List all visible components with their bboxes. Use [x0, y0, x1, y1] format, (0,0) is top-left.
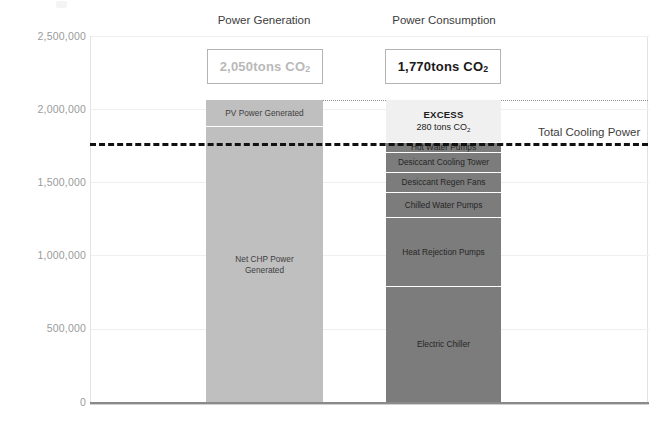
excess-title: EXCESS — [423, 109, 463, 121]
generation-co2-callout: 2,050 tons CO2 — [207, 49, 323, 84]
excess-unit: tons CO — [432, 122, 468, 132]
segment-pv-power-generated: PV Power Generated — [206, 100, 323, 126]
segment-label: Electric Chiller — [417, 339, 470, 349]
segment-desiccant-cooling-tower: Desiccant Cooling Tower — [386, 152, 501, 172]
gridline-500000 — [91, 329, 649, 330]
segment-net-chp-power-generated: Net CHP Power Generated — [206, 126, 323, 402]
gridline-1000000 — [91, 255, 649, 256]
gridline-2000000 — [91, 109, 649, 110]
total-cooling-power-label: Total Cooling Power — [538, 126, 640, 138]
consumption-co2-subscript: 2 — [483, 64, 488, 74]
consumption-co2-callout: 1,770 tons CO2 — [385, 49, 501, 84]
generation-co2-subscript: 2 — [305, 64, 310, 74]
gridline-1500000 — [91, 182, 649, 183]
segment-label-line1: Net CHP Power — [235, 254, 293, 264]
segment-label: Desiccant Cooling Tower — [398, 157, 489, 167]
column-header-consumption: Power Consumption — [374, 14, 514, 26]
segment-label-line2: Generated — [245, 265, 284, 275]
segment-label: Net CHP Power Generated — [235, 254, 293, 274]
x-axis-baseline-shadow — [90, 404, 649, 405]
segment-label: Heat Rejection Pumps — [402, 247, 485, 257]
plot-area — [90, 36, 648, 402]
y-axis-tick-labels: 2,500,000 2,000,000 1,500,000 1,000,000 … — [0, 0, 86, 427]
consumption-co2-unit: tons CO — [431, 59, 483, 74]
generation-co2-unit: tons CO — [253, 59, 305, 74]
column-header-generation: Power Generation — [194, 14, 334, 26]
segment-desiccant-regen-fans: Desiccant Regen Fans — [386, 172, 501, 192]
y-tick-0: 0 — [2, 396, 86, 408]
excess-number: 280 — [417, 122, 432, 132]
segment-chilled-water-pumps: Chilled Water Pumps — [386, 192, 501, 217]
segment-label: Chilled Water Pumps — [405, 200, 483, 210]
y-tick-1500000: 1,500,000 — [2, 176, 86, 188]
gridline-2500000 — [91, 36, 649, 37]
generation-co2-number: 2,050 — [220, 59, 254, 74]
segment-heat-rejection-pumps: Heat Rejection Pumps — [386, 217, 501, 286]
excess-subscript: 2 — [467, 126, 470, 133]
segment-electric-chiller: Electric Chiller — [386, 286, 501, 402]
segment-label: Desiccant Regen Fans — [402, 177, 486, 187]
segment-label: PV Power Generated — [225, 108, 303, 118]
excess-subtitle: 280 tons CO2 — [417, 122, 471, 133]
segment-excess: EXCESS 280 tons CO2 — [386, 100, 501, 142]
y-tick-500000: 500,000 — [2, 322, 86, 334]
consumption-co2-number: 1,770 — [398, 59, 432, 74]
y-tick-2000000: 2,000,000 — [2, 103, 86, 115]
y-tick-2500000: 2,500,000 — [2, 30, 86, 42]
total-cooling-power-line — [90, 143, 648, 146]
stacked-bar-chart: 2,500,000 2,000,000 1,500,000 1,000,000 … — [0, 0, 669, 427]
y-tick-1000000: 1,000,000 — [2, 249, 86, 261]
